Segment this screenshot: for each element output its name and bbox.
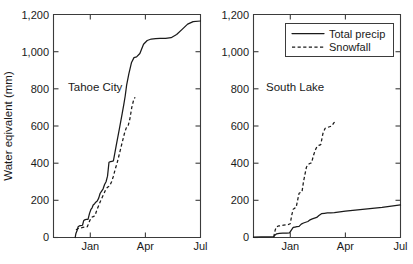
panel1-label: Tahoe City [68, 81, 123, 93]
y-tick-label: 600 [31, 120, 49, 132]
chart-svg: Water eqivalent (mm) 0 200 400 600 800 1… [0, 0, 413, 264]
y-tick-label: 1,200 [21, 9, 49, 21]
panel1-x-ticks [90, 15, 145, 238]
panel1-y-tick-labels: 0 200 400 600 800 1,000 1,200 [21, 9, 49, 243]
y-tick-label: 200 [231, 194, 249, 206]
x-tick-label: Jul [193, 240, 207, 252]
y-tick-label: 1,200 [221, 9, 249, 21]
panel1-x-tick-labels: Jan Apr Jul [81, 240, 207, 252]
y-tick-label: 600 [231, 120, 249, 132]
panel1-axis-frame [54, 15, 201, 238]
y-axis-title: Water eqivalent (mm) [2, 71, 14, 181]
panel2-label: South Lake [266, 81, 324, 93]
y-tick-label: 400 [231, 157, 249, 169]
figure-container: Water eqivalent (mm) 0 200 400 600 800 1… [0, 0, 413, 264]
panel1-total-precip-line [75, 21, 200, 238]
panel2-y-tick-labels: 0 200 400 600 800 1,000 1,200 [221, 9, 249, 243]
panel-south-lake: 0 200 400 600 800 1,000 1,200 [221, 9, 407, 252]
panel2-total-precip-line [254, 205, 401, 237]
panel2-x-tick-labels: Jan Apr Jul [281, 240, 407, 252]
x-tick-label: Jan [81, 240, 99, 252]
y-tick-label: 800 [231, 83, 249, 95]
x-tick-label: Jul [393, 240, 407, 252]
legend-label-total-precip: Total precip [329, 28, 385, 40]
y-tick-label: 1,000 [21, 46, 49, 58]
panel1-y-ticks [54, 52, 201, 238]
panel2-snowfall-line [274, 121, 336, 237]
legend-label-snowfall: Snowfall [329, 41, 371, 53]
panel-tahoe-city: 0 200 400 600 800 1,000 1,200 [21, 9, 207, 252]
y-tick-label: 0 [43, 231, 49, 243]
legend[interactable]: Total precip Snowfall [286, 24, 394, 57]
panel1-snowfall-line [76, 97, 135, 229]
y-tick-label: 800 [31, 83, 49, 95]
x-tick-label: Apr [337, 240, 354, 252]
y-tick-label: 1,000 [221, 46, 249, 58]
panel2-y-ticks [254, 52, 401, 238]
x-tick-label: Jan [281, 240, 299, 252]
y-tick-label: 200 [31, 194, 49, 206]
x-tick-label: Apr [137, 240, 154, 252]
y-tick-label: 0 [243, 231, 249, 243]
y-tick-label: 400 [31, 157, 49, 169]
